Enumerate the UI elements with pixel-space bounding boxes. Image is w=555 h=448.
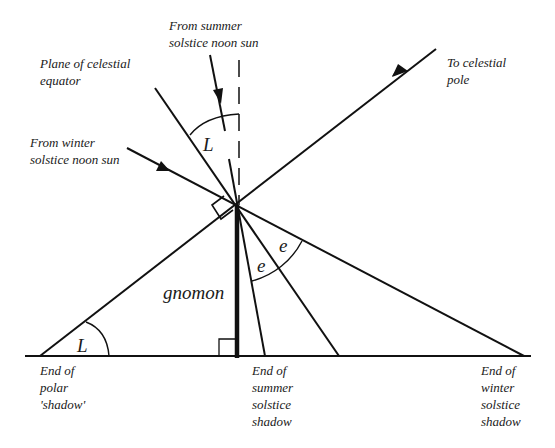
latitude-symbol-bottom: L	[76, 335, 88, 356]
latitude-arc-bottom	[86, 322, 109, 356]
pole-arrowhead	[392, 64, 408, 77]
summer-arrowhead	[213, 88, 223, 104]
right-angle-base	[219, 339, 237, 356]
winter-arrowhead	[156, 161, 170, 171]
winter-sun-label: From winter solstice noon sun	[29, 135, 120, 167]
gnomon-diagram: From summer solstice noon sun Plane of c…	[0, 0, 555, 448]
winter-shadow-label: End of winter solstice shadow	[480, 363, 523, 429]
equator-plane-line	[155, 88, 339, 356]
polar-shadow-label: End of polar 'shadow'	[39, 363, 86, 412]
summer-sun-label: From summer solstice noon sun	[168, 18, 259, 50]
latitude-symbol-top: L	[202, 134, 214, 155]
celestial-equator-label: Plane of celestial equator	[39, 56, 134, 88]
latitude-arc-top	[190, 114, 239, 135]
obliquity-symbol-1: e	[257, 255, 265, 276]
summer-shadow-label: End of summer solstice shadow	[251, 363, 296, 429]
celestial-pole-label: To celestial pole	[446, 55, 509, 87]
obliquity-symbol-2: e	[279, 235, 287, 256]
gnomon-label: gnomon	[163, 282, 224, 303]
winter-sun-ray	[127, 148, 524, 356]
